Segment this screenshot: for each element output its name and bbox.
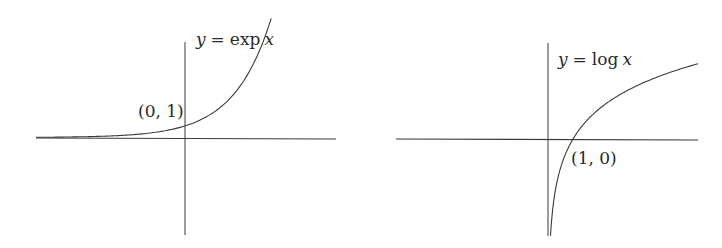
- log-x-axis: [396, 139, 698, 140]
- log-point-annotation: (1, 0): [571, 148, 617, 168]
- exp-x-axis: [36, 138, 336, 139]
- exp-plot: y=expx (0, 1): [36, 18, 336, 235]
- log-plot: y=logx (1, 0): [396, 43, 698, 236]
- exp-point-annotation: (0, 1): [138, 101, 184, 121]
- log-curve-label: y=logx: [557, 49, 632, 69]
- figure-canvas: y=expx (0, 1) y=logx (1, 0): [0, 0, 722, 248]
- exp-curve-label: y=expx: [195, 29, 274, 49]
